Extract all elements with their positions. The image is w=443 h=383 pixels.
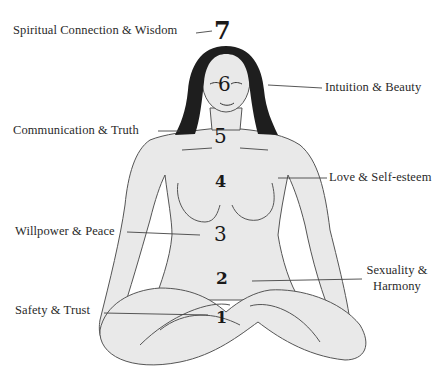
chakra-2-label-line1: Sexuality & <box>362 262 432 278</box>
chakra-4-number: 4 <box>215 172 226 191</box>
chakra-2-label-line2: Harmony <box>362 278 432 294</box>
chakra-2-label: Sexuality & Harmony <box>362 262 432 294</box>
chakra-6-number: 6 <box>218 72 231 96</box>
chakra-1-number: 1 <box>216 308 227 327</box>
chakra-2-number: 2 <box>216 268 228 288</box>
chakra-4-label: Love & Self-esteem <box>329 170 431 185</box>
chakra-6-label: Intuition & Beauty <box>325 80 421 95</box>
chakra-1-label: Safety & Trust <box>15 303 90 318</box>
chakra-7-label: Spiritual Connection & Wisdom <box>13 23 177 38</box>
chakra-diagram: 7 6 5 4 3 2 1 Spiritual Connection & Wis… <box>0 0 443 383</box>
chakra-5-label: Communication & Truth <box>13 123 139 138</box>
chakra-5-number: 5 <box>214 124 227 148</box>
chakra-3-number: 3 <box>214 222 227 246</box>
chakra-7-number: 7 <box>214 16 231 45</box>
chakra-3-label: Willpower & Peace <box>15 224 115 239</box>
